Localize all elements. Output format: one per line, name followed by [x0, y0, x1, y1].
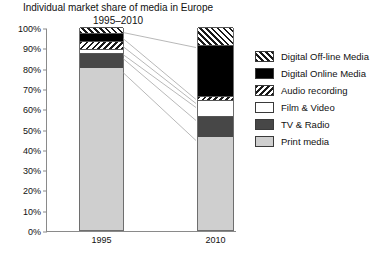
y-axis-tick-label: 40% [23, 146, 47, 156]
y-axis-tick-label: 50% [23, 126, 47, 136]
chart-legend: Digital Off-line MediaDigital Online Med… [255, 48, 369, 150]
legend-item-audio[interactable]: Audio recording [255, 82, 369, 99]
y-axis-tick-label: 0% [28, 227, 47, 237]
segment-divider [80, 33, 123, 34]
y-axis-tick-label: 70% [23, 85, 47, 95]
plot-inner: 100%90%80%70%60%50%40%30%20%10%0%1995201… [47, 29, 236, 231]
bar-segment-film[interactable] [80, 49, 123, 53]
legend-item-film[interactable]: Film & Video [255, 99, 369, 116]
bar-segment-film[interactable] [198, 100, 233, 116]
legend-item-online[interactable]: Digital Online Media [255, 65, 369, 82]
segment-divider [198, 27, 233, 28]
legend-swatch-tv [255, 119, 274, 130]
bar-segment-offline[interactable] [198, 27, 233, 45]
y-axis-tick-label: 20% [23, 186, 47, 196]
legend-label-audio: Audio recording [281, 85, 348, 96]
chart-title-main: Individual market share of media in Euro… [0, 2, 236, 14]
plot-area: 100%90%80%70%60%50%40%30%20%10%0%1995201… [46, 29, 236, 232]
bar-segment-print[interactable] [80, 68, 123, 230]
bar-segment-print[interactable] [198, 137, 233, 230]
legend-item-offline[interactable]: Digital Off-line Media [255, 48, 369, 65]
segment-divider [80, 41, 123, 42]
x-axis-label-2010: 2010 [205, 235, 225, 245]
legend-label-offline: Digital Off-line Media [281, 51, 369, 62]
legend-label-tv: TV & Radio [281, 119, 330, 130]
legend-label-film: Film & Video [281, 102, 335, 113]
segment-divider [198, 116, 233, 117]
bar-segment-offline[interactable] [80, 27, 123, 33]
segment-divider [80, 27, 123, 28]
bar-1995[interactable] [79, 28, 124, 231]
legend-swatch-audio [255, 85, 274, 96]
bar-2010[interactable] [197, 28, 234, 231]
segment-divider [80, 49, 123, 50]
segment-divider [198, 45, 233, 46]
chart-container: Individual market share of media in Euro… [0, 0, 392, 258]
bar-segment-online[interactable] [198, 45, 233, 96]
bar-segment-audio[interactable] [80, 41, 123, 49]
legend-label-online: Digital Online Media [281, 68, 366, 79]
y-axis-tick-label: 10% [23, 207, 47, 217]
bar-segment-tv[interactable] [80, 53, 123, 67]
bar-segment-online[interactable] [80, 33, 123, 41]
x-axis-label-1995: 1995 [91, 235, 111, 245]
legend-swatch-online [255, 68, 274, 79]
y-axis-tick-label: 30% [23, 166, 47, 176]
segment-divider [198, 100, 233, 101]
legend-label-print: Print media [281, 136, 329, 147]
segment-divider [80, 53, 123, 54]
segment-divider [198, 96, 233, 97]
legend-swatch-print [255, 136, 274, 147]
bar-segment-tv[interactable] [198, 116, 233, 136]
y-axis-tick-label: 60% [23, 105, 47, 115]
legend-item-print[interactable]: Print media [255, 133, 369, 150]
legend-swatch-film [255, 102, 274, 113]
bar-segment-audio[interactable] [198, 96, 233, 100]
legend-item-tv[interactable]: TV & Radio [255, 116, 369, 133]
y-axis-tick-label: 90% [23, 44, 47, 54]
y-axis-tick-label: 100% [18, 24, 47, 34]
y-axis-tick-label: 80% [23, 65, 47, 75]
legend-swatch-offline [255, 51, 274, 62]
